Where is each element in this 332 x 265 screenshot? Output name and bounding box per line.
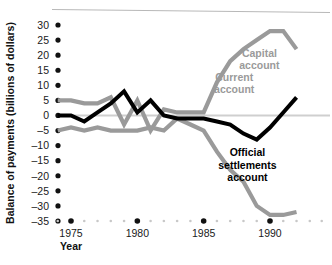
- x-tick-label: 1980: [126, 227, 150, 239]
- y-axis-dot: [55, 22, 60, 27]
- x-axis-minor-dot: [123, 220, 126, 223]
- x-axis-minor-dot: [110, 220, 113, 223]
- x-axis-minor-dot: [242, 220, 245, 223]
- y-axis-dot: [55, 53, 60, 58]
- x-tick-label: 1990: [258, 227, 282, 239]
- x-axis-minor-dot: [320, 220, 323, 223]
- y-axis-dot: [55, 188, 60, 193]
- official-settlements-account-label: Official: [230, 146, 266, 158]
- y-tick-label: –30: [31, 200, 49, 212]
- y-tick-label: –20: [31, 170, 49, 182]
- y-axis-dot: [55, 158, 60, 163]
- capital-account-label: account: [239, 59, 280, 71]
- y-tick-label: 25: [37, 34, 49, 46]
- x-axis-minor-dot: [189, 220, 192, 223]
- y-tick-label: –10: [31, 139, 49, 151]
- y-tick-label: 30: [37, 19, 49, 31]
- x-tick-label: 1975: [59, 227, 83, 239]
- current-account-label: account: [214, 83, 255, 95]
- x-axis-minor-dot: [149, 220, 152, 223]
- x-axis-minor-dot: [216, 220, 219, 223]
- chart-canvas: Balance of payments (billions of dollars…: [0, 0, 332, 265]
- x-axis-major-dot: [68, 218, 74, 224]
- y-tick-label: 10: [37, 79, 49, 91]
- y-axis-dot: [55, 173, 60, 178]
- y-axis-dot: [55, 203, 60, 208]
- x-axis-minor-dot: [176, 220, 179, 223]
- x-axis-minor-dot: [83, 220, 86, 223]
- x-axis-minor-dot: [56, 220, 59, 223]
- x-axis-minor-dot: [309, 220, 312, 223]
- x-axis-minor-dot: [282, 220, 285, 223]
- x-axis-minor-dot: [255, 220, 258, 223]
- x-axis-minor-dot: [295, 220, 298, 223]
- official-settlements-account-label: settlements: [218, 159, 277, 171]
- y-tick-label: 0: [43, 109, 49, 121]
- x-axis-minor-dot: [96, 220, 99, 223]
- y-axis-dot: [55, 83, 60, 88]
- x-axis-title: Year: [60, 240, 82, 252]
- y-axis-dot: [55, 68, 60, 73]
- capital-account-label: Capital: [242, 47, 277, 59]
- x-axis-major-dot: [267, 218, 273, 224]
- y-tick-label: 5: [43, 94, 49, 106]
- y-tick-label: –25: [31, 185, 49, 197]
- y-tick-label: 15: [37, 64, 49, 76]
- y-axis-dot: [55, 37, 60, 42]
- x-axis-minor-dot: [229, 220, 232, 223]
- y-axis-dot: [55, 143, 60, 148]
- x-axis-minor-dot: [163, 220, 166, 223]
- x-tick-label: 1985: [192, 227, 216, 239]
- y-tick-label: –5: [37, 124, 49, 136]
- official-settlements-account-label: account: [227, 171, 268, 183]
- x-axis-major-dot: [201, 218, 207, 224]
- balance-of-payments-chart: Balance of payments (billions of dollars…: [0, 0, 332, 265]
- current-account-label: Current: [215, 71, 253, 83]
- y-tick-label: 20: [37, 49, 49, 61]
- top-rule: [52, 10, 330, 13]
- x-axis-major-dot: [135, 218, 141, 224]
- y-tick-label: –35: [31, 215, 49, 227]
- y-tick-label: –15: [31, 154, 49, 166]
- y-axis-title: Balance of payments (billions of dollars…: [4, 22, 16, 224]
